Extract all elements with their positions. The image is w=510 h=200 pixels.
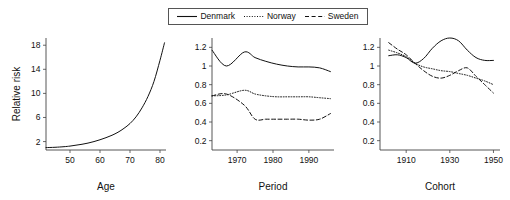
legend-label-norway: Norway xyxy=(267,12,296,21)
y-tick-label-age: 14 xyxy=(31,64,41,74)
x-tick-label-cohort: 1930 xyxy=(440,155,459,165)
series-line-cohort-denmark xyxy=(389,38,494,63)
x-tick-label-age: 80 xyxy=(155,155,165,165)
chart-panel-period: 0.20.40.60.811.2197019801990Period xyxy=(195,38,334,192)
y-tick-label-period: 0.2 xyxy=(195,136,207,146)
x-tick-label-cohort: 1950 xyxy=(484,155,503,165)
series-line-period-denmark xyxy=(212,50,330,71)
y-tick-label-age: 2 xyxy=(36,137,41,147)
plot-surface: 2610141850607080AgeRelative risk0.20.40.… xyxy=(0,0,510,200)
y-tick-label-cohort: 1 xyxy=(370,61,375,71)
x-tick-label-period: 1980 xyxy=(264,155,283,165)
y-tick-label-period: 0.8 xyxy=(195,80,207,90)
y-tick-label-cohort: 0.4 xyxy=(363,117,375,127)
series-line-cohort-norway xyxy=(389,50,494,85)
series-line-period-norway xyxy=(212,90,330,98)
series-line-cohort-sweden xyxy=(389,43,494,93)
y-tick-label-age: 6 xyxy=(36,112,41,122)
chart-panel-cohort: 0.20.40.60.811.2191019301950Cohort xyxy=(363,38,504,192)
chart-panel-age: 2610141850607080AgeRelative risk xyxy=(11,38,166,192)
y-tick-label-cohort: 1.2 xyxy=(363,42,375,52)
line-solid-icon xyxy=(177,13,197,20)
line-dashed-icon xyxy=(305,13,325,20)
legend-entry-sweden: Sweden xyxy=(305,12,359,21)
x-tick-label-cohort: 1910 xyxy=(397,155,416,165)
legend-entry-denmark: Denmark xyxy=(177,12,234,21)
x-axis-title-cohort: Cohort xyxy=(425,181,455,192)
x-tick-label-period: 1970 xyxy=(228,155,247,165)
legend-label-sweden: Sweden xyxy=(328,12,359,21)
y-tick-label-period: 0.6 xyxy=(195,98,207,108)
line-dotted-icon xyxy=(244,13,264,20)
y-tick-label-age: 18 xyxy=(31,40,41,50)
figure-panel-group: Denmark Norway Sweden 2610141850607080Ag… xyxy=(0,0,510,200)
x-tick-label-period: 1990 xyxy=(299,155,318,165)
series-line-age-denmark xyxy=(46,43,165,148)
legend-label-denmark: Denmark xyxy=(200,12,234,21)
y-tick-label-age: 10 xyxy=(31,88,41,98)
y-tick-label-cohort: 0.2 xyxy=(363,136,375,146)
series-line-period-sweden xyxy=(212,94,330,121)
x-axis-title-age: Age xyxy=(97,181,115,192)
y-tick-label-cohort: 0.8 xyxy=(363,80,375,90)
x-axis-title-period: Period xyxy=(259,181,288,192)
y-tick-label-period: 1.2 xyxy=(195,42,207,52)
chart-legend: Denmark Norway Sweden xyxy=(168,8,368,25)
y-tick-label-cohort: 0.6 xyxy=(363,98,375,108)
legend-entry-norway: Norway xyxy=(244,12,296,21)
y-tick-label-period: 1 xyxy=(202,61,207,71)
x-tick-label-age: 50 xyxy=(65,155,75,165)
x-tick-label-age: 60 xyxy=(95,155,105,165)
x-tick-label-age: 70 xyxy=(125,155,135,165)
y-tick-label-period: 0.4 xyxy=(195,117,207,127)
y-axis-title-age: Relative risk xyxy=(11,66,22,121)
